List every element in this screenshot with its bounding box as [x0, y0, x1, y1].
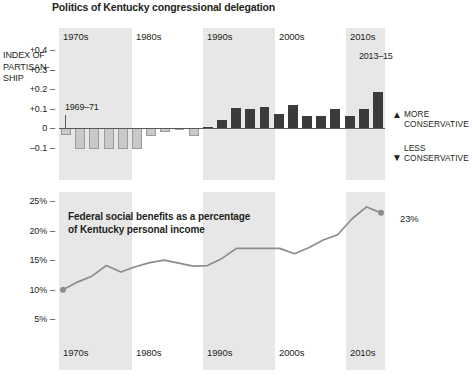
bar-1973-75	[89, 128, 99, 149]
less-conservative-arrow: ▼	[392, 153, 402, 163]
bar-1971-73	[75, 128, 85, 149]
bar-1987-89	[189, 128, 199, 135]
bar-1999-01	[274, 114, 284, 129]
bar-1969-71	[61, 128, 71, 135]
decade-label-bottom-1990s: 1990s	[207, 347, 232, 358]
decade-label-bottom-1970s: 1970s	[63, 347, 88, 358]
y-tick-bottom-4: 5%–	[34, 314, 55, 324]
more-conservative-label: MORE CONSERVATIVE	[404, 109, 469, 129]
line-series-social-benefits	[59, 192, 385, 370]
y-tick-bottom-2: 15%–	[29, 255, 55, 265]
y-tick-top-5: –0.1–	[30, 143, 55, 153]
bar-1979-81	[132, 128, 142, 149]
less-conservative-line-2: CONSERVATIVE	[404, 153, 469, 163]
end-marker	[378, 210, 384, 216]
bar-2011-13	[359, 109, 369, 129]
y-tick-bottom-0: 25%–	[29, 196, 55, 206]
less-conservative-line-1: LESS	[404, 143, 469, 153]
endpoint-label-23-percent: 23%	[400, 213, 419, 224]
panel-partisanship-chart: INDEX OF PARTISAN- SHIP +0.4– +0.3– +0.2…	[0, 22, 472, 180]
bar-series-partisanship	[59, 28, 385, 180]
plot-area-bottom: 25%– 20%– 15%– 10%– 5%– Federal social b…	[59, 192, 385, 370]
bar-2005-07	[316, 116, 326, 129]
bar-1975-77	[104, 128, 114, 149]
figure-title: Politics of Kentucky congressional deleg…	[52, 1, 275, 13]
bar-1991-93	[217, 120, 227, 129]
more-conservative-line-1: MORE	[404, 109, 469, 119]
more-conservative-arrow: ▲	[392, 110, 402, 120]
y-tick-top-0: +0.4–	[30, 45, 55, 55]
y-tick-bottom-1: 20%–	[29, 226, 55, 236]
y-tick-top-2: +0.2–	[30, 84, 55, 94]
start-marker	[60, 287, 66, 293]
zero-baseline	[59, 128, 385, 129]
bar-2001-03	[288, 105, 298, 129]
bar-1997-99	[260, 107, 270, 128]
decade-label-bottom-2010s: 2010s	[350, 347, 375, 358]
panel-social-benefits-chart: 25%– 20%– 15%– 10%– 5%– Federal social b…	[0, 186, 472, 391]
decade-label-bottom-2000s: 2000s	[279, 347, 304, 358]
y-tick-top-3: +0.1–	[30, 104, 55, 114]
bar-1995-97	[245, 109, 255, 129]
less-conservative-label: LESS CONSERVATIVE	[404, 143, 469, 163]
bar-2003-05	[302, 116, 312, 128]
y-tick-bottom-3: 10%–	[29, 285, 55, 295]
more-conservative-line-2: CONSERVATIVE	[404, 119, 469, 129]
bar-1993-95	[231, 108, 241, 129]
figure-container: Politics of Kentucky congressional deleg…	[0, 0, 472, 391]
decade-label-bottom-1980s: 1980s	[136, 347, 161, 358]
bar-1981-83	[146, 128, 156, 136]
y-tick-top-1: +0.3–	[30, 65, 55, 75]
social-benefits-line	[63, 207, 381, 290]
plot-area-top: +0.4– +0.3– +0.2– +0.1– 0– –0.1– 1970s 1…	[59, 28, 385, 180]
bar-1977-79	[118, 128, 128, 149]
bar-2013-15	[373, 92, 383, 128]
y-tick-top-4: 0–	[42, 123, 55, 133]
y-axis-title-line-3: SHIP	[3, 73, 49, 85]
bar-2009-11	[345, 116, 355, 128]
bar-2007-09	[330, 109, 340, 129]
